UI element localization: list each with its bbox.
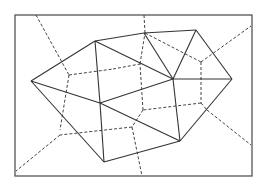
voronoi-edge	[36, 15, 69, 75]
delaunay-edge	[100, 103, 104, 162]
delaunay-edge	[196, 30, 232, 79]
delaunay-edge	[173, 79, 180, 141]
voronoi-edge	[113, 64, 140, 69]
voronoi-edge	[60, 127, 132, 135]
delaunay-edge	[31, 41, 95, 81]
delaunay-edge	[104, 141, 180, 162]
voronoi-edge	[201, 26, 251, 62]
delaunay-edge	[95, 41, 100, 103]
voronoi-edge	[144, 15, 145, 33]
voronoi-delaunay-diagram	[0, 0, 262, 192]
voronoi-edges	[16, 15, 251, 176]
delaunay-edge	[100, 79, 173, 103]
voronoi-edge	[143, 103, 201, 110]
voronoi-edge	[16, 135, 60, 171]
delaunay-edge	[173, 30, 196, 79]
diagram-frame	[15, 15, 252, 176]
delaunay-edge	[95, 33, 144, 41]
voronoi-edge	[207, 110, 251, 145]
voronoi-edge	[140, 33, 145, 64]
voronoi-edge	[140, 64, 143, 110]
delaunay-edges	[31, 30, 232, 162]
voronoi-edge	[201, 103, 207, 110]
delaunay-edge	[180, 79, 232, 141]
voronoi-edge	[69, 69, 113, 75]
delaunay-edge	[100, 103, 180, 141]
delaunay-edge	[144, 30, 196, 33]
